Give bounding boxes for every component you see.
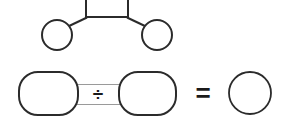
connector-line-right xyxy=(127,18,146,27)
square-shape xyxy=(86,0,128,17)
divide-operator: ÷ xyxy=(93,84,103,105)
diagram-canvas: ÷ = xyxy=(0,0,290,126)
bottom-row-group: ÷ = xyxy=(19,72,271,115)
right-rounded-rect-shape xyxy=(119,72,176,115)
connector-line-left xyxy=(68,18,87,27)
result-circle-shape xyxy=(229,72,271,114)
top-row-group xyxy=(42,0,172,50)
top-left-circle-shape xyxy=(42,20,72,50)
left-rounded-rect-shape xyxy=(19,72,78,115)
top-right-circle-shape xyxy=(142,20,172,50)
equals-operator: = xyxy=(195,78,210,108)
shape-equation-diagram: ÷ = xyxy=(0,0,290,126)
